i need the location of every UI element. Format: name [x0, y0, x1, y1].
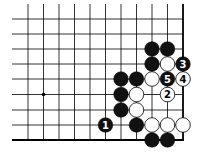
black-stone-move-1: 1 — [98, 118, 113, 133]
move-number: 3 — [180, 59, 187, 70]
black-stone-move-3: 3 — [176, 57, 191, 72]
black-stone — [129, 118, 144, 133]
black-stone — [114, 87, 129, 102]
move-number: 5 — [164, 74, 171, 85]
black-stone — [160, 42, 175, 57]
grid-lines — [12, 4, 184, 140]
white-stone-move-4: 4 — [176, 72, 191, 87]
white-stone — [160, 118, 175, 133]
move-number: 4 — [180, 74, 187, 85]
black-stone — [129, 72, 144, 87]
black-stone — [114, 72, 129, 87]
move-number: 1 — [102, 120, 109, 131]
move-number: 2 — [164, 89, 171, 100]
go-board: 35421 — [0, 0, 204, 153]
white-stone-move-2: 2 — [160, 87, 175, 102]
white-stone — [160, 57, 175, 72]
black-stone-move-5: 5 — [160, 72, 175, 87]
white-stone — [176, 118, 191, 133]
black-stone — [145, 133, 160, 148]
white-stone — [129, 103, 144, 118]
white-stone — [129, 87, 144, 102]
black-stone — [114, 103, 129, 118]
star-points — [42, 93, 46, 97]
black-stone — [160, 133, 175, 148]
star-point — [42, 93, 46, 97]
white-stone — [145, 72, 160, 87]
black-stone — [145, 42, 160, 57]
white-stone — [145, 118, 160, 133]
black-stone — [145, 57, 160, 72]
